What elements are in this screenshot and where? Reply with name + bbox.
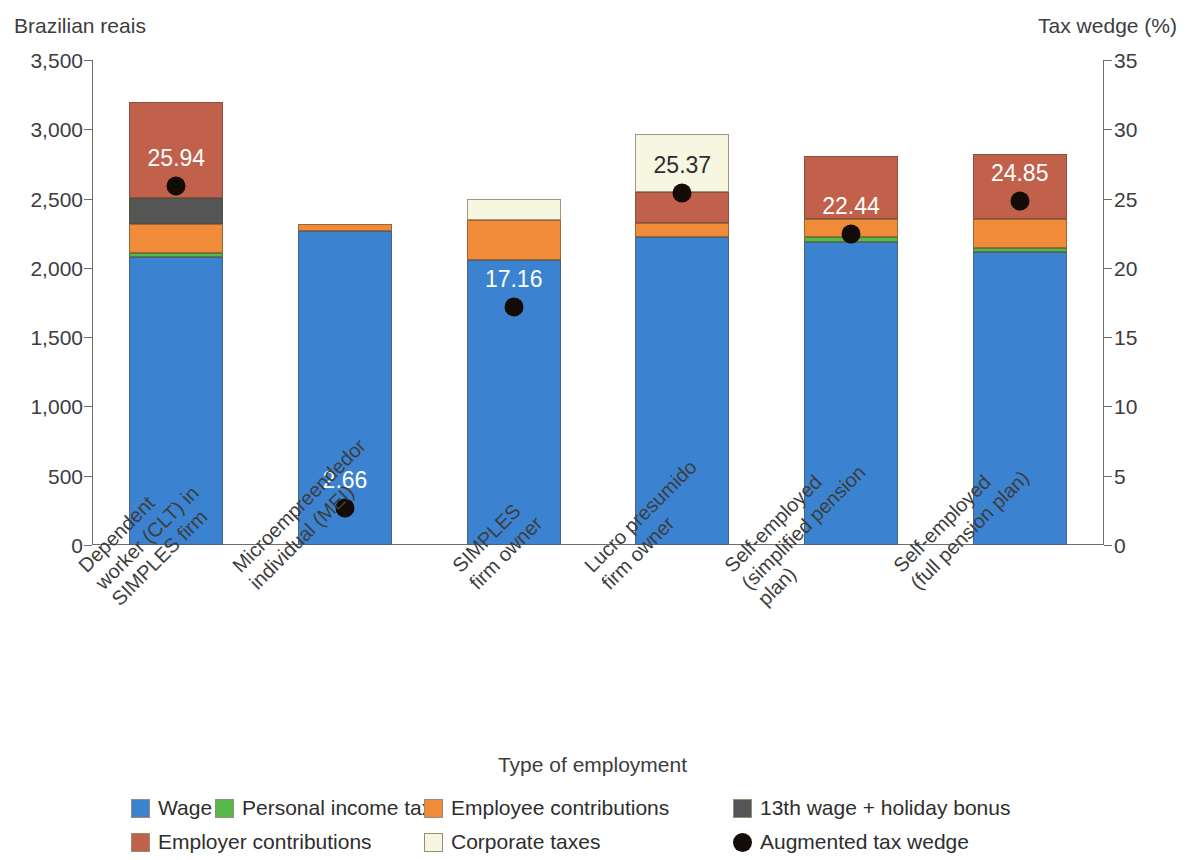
legend-row-1: WagePersonal income taxEmployee contribu… [0, 796, 1185, 826]
bar-segment[interactable] [129, 224, 223, 254]
legend-label: Employee contributions [451, 796, 669, 820]
right-tick-label: 15 [1114, 327, 1137, 348]
right-tick-mark [1104, 337, 1112, 338]
right-tick-mark [1104, 199, 1112, 200]
legend-item[interactable]: Corporate taxes [424, 830, 600, 854]
right-tick-mark [1104, 60, 1112, 61]
tax-wedge-value-label: 17.16 [485, 268, 543, 291]
right-tick-label: 10 [1114, 396, 1137, 417]
legend-label: Wage [158, 796, 212, 820]
left-tick-mark [84, 60, 92, 61]
tax-wedge-marker[interactable] [842, 225, 861, 244]
right-tick-mark [1104, 268, 1112, 269]
legend-label: 13th wage + holiday bonus [760, 796, 1010, 820]
bar-segment[interactable] [973, 248, 1067, 252]
left-tick-mark [84, 268, 92, 269]
tax-wedge-marker[interactable] [504, 298, 523, 317]
right-tick-mark [1104, 476, 1112, 477]
right-tick-mark [1104, 545, 1112, 546]
left-tick-label: 1,500 [30, 327, 83, 348]
left-tick-mark [84, 129, 92, 130]
right-axis-title: Tax wedge (%) [1038, 14, 1177, 38]
bar-segment[interactable] [129, 253, 223, 257]
left-tick-label: 3,500 [30, 50, 83, 71]
legend-item[interactable]: 13th wage + holiday bonus [733, 796, 1010, 820]
right-tick-label: 5 [1114, 465, 1126, 486]
tax-wedge-value-label: 25.94 [148, 147, 206, 170]
right-tick-mark [1104, 406, 1112, 407]
tax-wedge-marker[interactable] [167, 176, 186, 195]
tax-wedge-marker[interactable] [673, 184, 692, 203]
bar-segment[interactable] [467, 199, 561, 220]
bar-segment[interactable] [467, 220, 561, 260]
legend-swatch-icon [424, 833, 443, 852]
legend-row-2: Employer contributionsCorporate taxesAug… [0, 830, 1185, 860]
right-tick-label: 0 [1114, 535, 1126, 556]
right-tick-mark [1104, 129, 1112, 130]
left-tick-mark [84, 406, 92, 407]
legend-label: Corporate taxes [451, 830, 600, 854]
left-axis-spine [92, 60, 93, 545]
right-axis-spine [1103, 60, 1104, 545]
left-tick-label: 2,500 [30, 188, 83, 209]
right-tick-label: 35 [1114, 50, 1137, 71]
legend-item[interactable]: Personal income tax [215, 796, 432, 820]
left-tick-label: 2,000 [30, 257, 83, 278]
right-tick-label: 25 [1114, 188, 1137, 209]
tax-wedge-value-label: 25.37 [654, 154, 712, 177]
right-tick-label: 20 [1114, 257, 1137, 278]
left-tick-mark [84, 199, 92, 200]
left-tick-label: 1,000 [30, 396, 83, 417]
legend-label: Employer contributions [158, 830, 372, 854]
legend-swatch-icon [215, 799, 234, 818]
legend-item[interactable]: Employer contributions [131, 830, 372, 854]
tax-wedge-value-label: 24.85 [991, 162, 1049, 185]
chart-root: Brazilian reais Tax wedge (%) 05001,0001… [0, 0, 1185, 860]
bar-segment[interactable] [973, 219, 1067, 247]
legend-swatch-icon [131, 833, 150, 852]
legend-label: Augmented tax wedge [760, 830, 969, 854]
left-tick-label: 500 [48, 465, 83, 486]
left-tick-mark [84, 476, 92, 477]
bar-segment[interactable] [635, 223, 729, 238]
legend-item[interactable]: Employee contributions [424, 796, 669, 820]
right-tick-label: 30 [1114, 119, 1137, 140]
left-tick-mark [84, 337, 92, 338]
tax-wedge-value-label: 22.44 [822, 195, 880, 218]
bar-segment[interactable] [298, 224, 392, 232]
bar-segment[interactable] [129, 198, 223, 224]
legend-swatch-icon [733, 799, 752, 818]
legend-label: Personal income tax [242, 796, 432, 820]
legend-marker-circle-icon [733, 833, 752, 852]
legend-item[interactable]: Wage [131, 796, 212, 820]
legend-swatch-icon [131, 799, 150, 818]
plot-area: 05001,0001,5002,0002,5003,0003,500 05101… [92, 60, 1104, 545]
legend-item[interactable]: Augmented tax wedge [733, 830, 969, 854]
x-axis-title: Type of employment [0, 753, 1185, 777]
legend-swatch-icon [424, 799, 443, 818]
left-axis-title: Brazilian reais [14, 14, 146, 38]
left-tick-label: 3,000 [30, 119, 83, 140]
tax-wedge-marker[interactable] [1010, 191, 1029, 210]
